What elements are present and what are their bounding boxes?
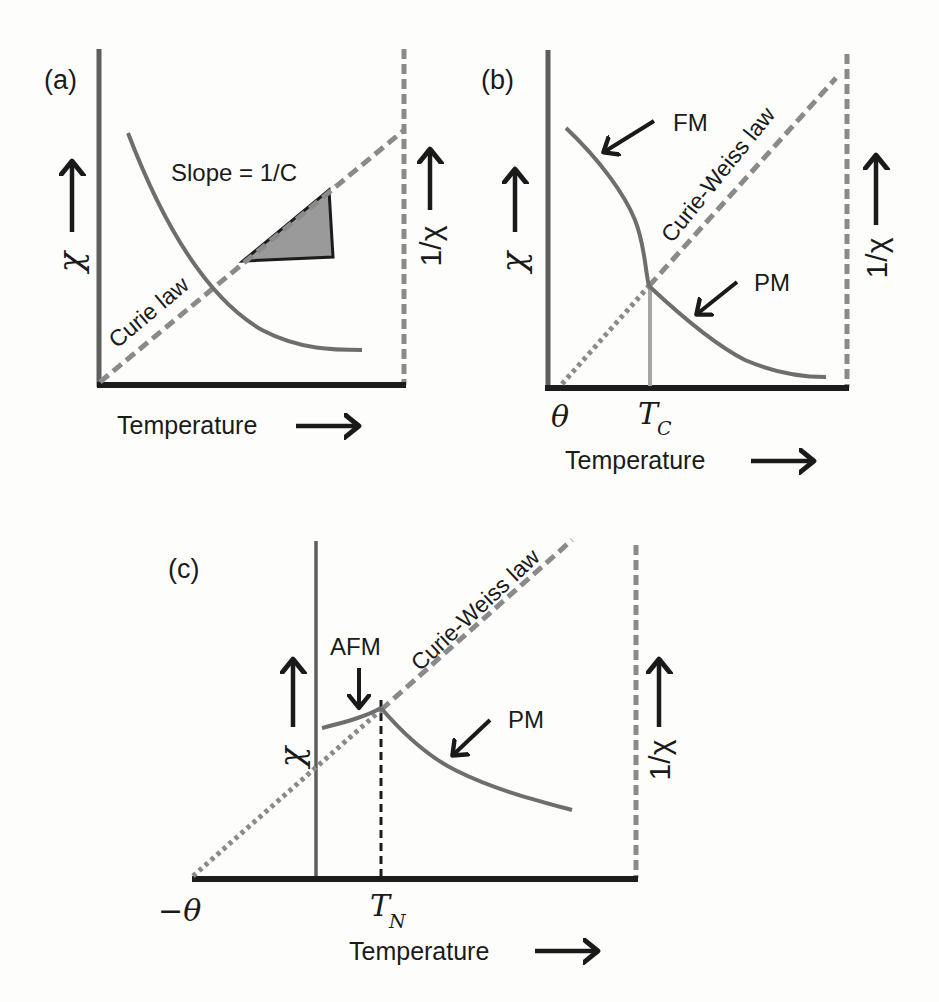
panel-c: (c) AFM PM Curie-Weiss law χ 1/χ	[158, 540, 676, 965]
panel-a: (a) Slope = 1/C Curie law χ 1/χ Temperat…	[44, 49, 447, 439]
x-axis-label-b: Temperature	[565, 446, 705, 474]
pm-label: PM	[754, 269, 790, 296]
curie-law-label: Curie law	[104, 271, 194, 353]
curie-weiss-dotted-segment	[193, 710, 381, 876]
theta-tick-label: θ	[551, 399, 569, 434]
tc-tick-subscript: C	[657, 417, 672, 439]
curie-weiss-label: Curie-Weiss law	[406, 543, 545, 675]
inverse-chi-axis-label-b: 1/χ	[860, 156, 893, 278]
panel-label-a: (a)	[44, 65, 77, 95]
inverse-chi-symbol: 1/χ	[414, 225, 447, 266]
afm-label: AFM	[330, 633, 381, 660]
inverse-chi-axis-label-a: 1/χ	[414, 150, 447, 266]
panel-b: (b) FM PM Curie-Weiss law χ 1/χ θ T	[481, 50, 893, 474]
chi-symbol: χ	[50, 249, 90, 274]
pm-pointer-arrow-icon	[697, 282, 737, 314]
x-axis-label-a: Temperature	[117, 411, 257, 439]
susceptibility-figure: (a) Slope = 1/C Curie law χ 1/χ Temperat…	[0, 0, 939, 1002]
slope-annotation: Slope = 1/C	[171, 159, 297, 186]
panel-label-b: (b)	[481, 65, 514, 95]
chi-axis-label-c: χ	[271, 660, 311, 769]
curie-weiss-dotted-segment	[562, 286, 649, 384]
pm-label: PM	[508, 706, 544, 733]
neg-theta-tick-label: −θ	[158, 893, 201, 928]
tn-tick-subscript: N	[388, 910, 407, 932]
inverse-chi-axis-label-c: 1/χ	[643, 660, 676, 780]
fm-pointer-arrow-icon	[604, 121, 654, 152]
chi-axis-label-b: χ	[493, 170, 533, 274]
pm-pointer-arrow-icon	[453, 720, 490, 755]
afm-curve	[322, 708, 381, 728]
x-axis-label-c: Temperature	[349, 937, 489, 965]
chi-axis-label-a: χ	[50, 162, 90, 274]
chi-symbol: χ	[493, 249, 533, 274]
inverse-chi-symbol: 1/χ	[860, 237, 893, 278]
chi-symbol: χ	[271, 744, 311, 769]
pm-curve	[649, 286, 826, 377]
panel-label-c: (c)	[168, 554, 199, 584]
inverse-chi-symbol: 1/χ	[643, 739, 676, 780]
fm-label: FM	[673, 109, 708, 136]
